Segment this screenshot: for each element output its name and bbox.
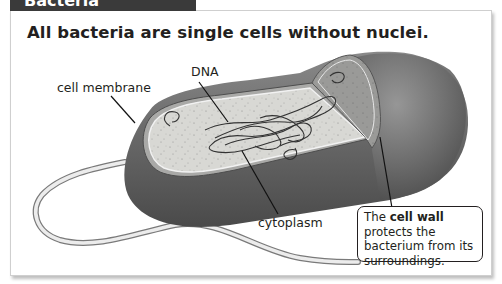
cell-membrane-leader — [111, 96, 135, 123]
label-cytoplasm: cytoplasm — [258, 215, 323, 230]
label-dna: DNA — [191, 64, 219, 79]
callout-term: cell wall — [390, 210, 444, 224]
callout-suffix: protects the bacterium from its surround… — [364, 225, 473, 268]
label-cell-membrane: cell membrane — [57, 80, 151, 95]
cell-wall-callout: The cell wall protects the bacterium fro… — [357, 206, 483, 262]
callout-prefix: The — [364, 210, 390, 224]
